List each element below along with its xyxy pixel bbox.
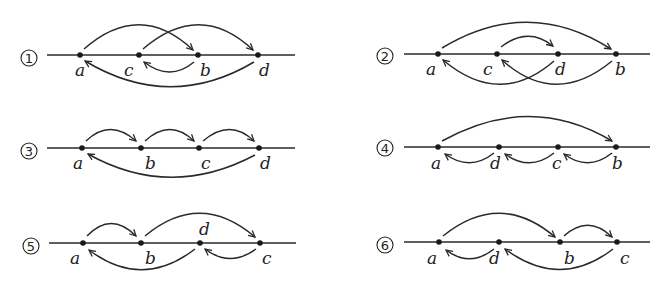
arrow-c-to-d (505, 249, 613, 270)
point-b (138, 145, 144, 151)
arrow-c-to-d (505, 153, 554, 163)
label-a: a (73, 153, 83, 173)
svg-text:1: 1 (25, 51, 33, 66)
point-b (138, 240, 144, 246)
circled-number-3: 3 (21, 143, 37, 159)
arrow-c-to-d (501, 36, 553, 47)
arrow-d-to-a (445, 153, 494, 163)
point-d (555, 51, 561, 57)
arrow-a-to-b (442, 117, 612, 142)
label-a: a (70, 248, 80, 268)
point-b (613, 144, 619, 150)
label-b: b (200, 60, 211, 80)
point-b (613, 51, 619, 57)
circled-number-6: 6 (377, 237, 393, 253)
point-a (79, 145, 85, 151)
arrow-a-to-b (86, 130, 136, 142)
label-c: c (552, 153, 562, 173)
point-d (197, 240, 203, 246)
point-a (436, 239, 442, 245)
arrow-d-to-a (88, 154, 255, 177)
point-c (494, 51, 500, 57)
point-c (196, 145, 202, 151)
arrow-d-to-a (89, 249, 195, 270)
point-c (614, 239, 620, 245)
circled-number-5: 5 (23, 238, 39, 254)
point-a (80, 240, 86, 246)
label-c: c (620, 248, 630, 268)
diagram-6: 6 a d b c (377, 213, 650, 269)
point-a (435, 144, 441, 150)
label-d: d (555, 59, 566, 79)
svg-text:6: 6 (381, 238, 389, 253)
arrow-b-to-c (144, 62, 194, 72)
svg-text:4: 4 (381, 141, 389, 156)
label-b: b (615, 59, 626, 79)
label-b: b (612, 153, 623, 173)
diagram-3: 3 a b c d (21, 130, 295, 178)
svg-text:2: 2 (381, 49, 389, 64)
point-d (496, 239, 502, 245)
label-d: d (199, 219, 210, 239)
label-d: d (260, 153, 271, 173)
label-c: c (201, 153, 211, 173)
label-a: a (426, 59, 436, 79)
point-c (257, 240, 263, 246)
diagram-4: 4 a d c b (377, 117, 650, 174)
point-a (435, 51, 441, 57)
label-d: d (490, 153, 501, 173)
diagram-5: 5 a b d c (23, 213, 296, 270)
point-d (256, 145, 262, 151)
point-c (555, 144, 561, 150)
arrow-b-to-c (564, 153, 612, 163)
label-a: a (75, 60, 85, 80)
arrow-b-to-c (564, 225, 612, 237)
circled-number-4: 4 (377, 140, 393, 156)
point-b (557, 239, 563, 245)
arrow-c-to-d (203, 130, 254, 142)
point-a (77, 52, 83, 58)
label-b: b (145, 248, 156, 268)
svg-text:5: 5 (27, 239, 35, 254)
diagram-figure: 1 a c b d 2 a c d b (0, 0, 665, 296)
diagram-2: 2 a c d b (377, 22, 650, 84)
label-c: c (262, 248, 272, 268)
diagram-1: 1 a c b d (21, 25, 295, 87)
point-d (496, 144, 502, 150)
point-c (136, 52, 142, 58)
svg-text:3: 3 (25, 144, 33, 159)
point-d (255, 52, 261, 58)
label-c: c (483, 59, 493, 79)
label-c: c (124, 60, 134, 80)
label-b: b (564, 248, 575, 268)
label-a: a (431, 153, 441, 173)
arrow-d-to-a (446, 249, 494, 259)
arrow-c-to-d (205, 249, 256, 259)
arrow-a-to-b (87, 224, 136, 237)
label-b: b (145, 153, 156, 173)
label-d: d (259, 60, 270, 80)
arrow-a-to-b (443, 213, 555, 237)
arrow-b-to-c (145, 130, 194, 142)
label-d: d (489, 248, 500, 268)
circled-number-2: 2 (377, 48, 393, 64)
point-b (195, 52, 201, 58)
circled-number-1: 1 (21, 50, 37, 66)
label-a: a (427, 248, 437, 268)
arrow-d-to-a (85, 61, 254, 87)
